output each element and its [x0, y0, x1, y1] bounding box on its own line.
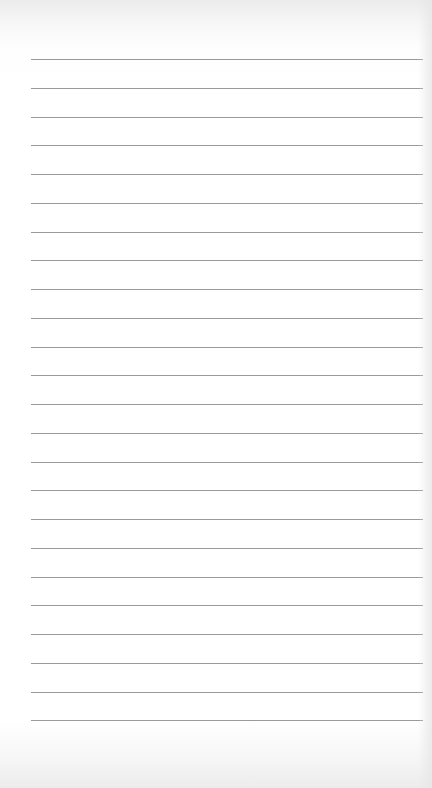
ruled-line: [31, 605, 423, 606]
lined-paper-page: [0, 0, 432, 788]
ruled-line: [31, 318, 423, 319]
ruled-line: [31, 375, 423, 376]
ruled-line: [31, 88, 423, 89]
ruled-line: [31, 232, 423, 233]
ruled-line: [31, 720, 423, 721]
ruled-line: [31, 174, 423, 175]
ruled-line: [31, 548, 423, 549]
ruled-line: [31, 663, 423, 664]
ruled-line: [31, 519, 423, 520]
ruled-line: [31, 433, 423, 434]
ruled-line: [31, 490, 423, 491]
ruled-line: [31, 117, 423, 118]
ruled-line: [31, 404, 423, 405]
ruled-line: [31, 260, 423, 261]
ruled-line: [31, 462, 423, 463]
ruled-line: [31, 692, 423, 693]
ruled-line: [31, 347, 423, 348]
ruled-line: [31, 203, 423, 204]
ruled-line: [31, 634, 423, 635]
ruled-line: [31, 145, 423, 146]
ruled-lines: [0, 0, 432, 788]
ruled-line: [31, 289, 423, 290]
ruled-line: [31, 577, 423, 578]
ruled-line: [31, 59, 423, 60]
